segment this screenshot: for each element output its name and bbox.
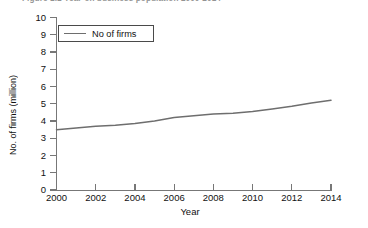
x-tick-2010 <box>252 184 253 190</box>
y-tick-label-5: 5 <box>20 99 46 109</box>
y-axis-line <box>56 17 57 191</box>
y-tick-9 <box>50 34 56 35</box>
x-tick-2012 <box>291 184 292 190</box>
legend-line-swatch-icon <box>64 33 86 35</box>
y-tick-1 <box>50 172 56 173</box>
x-tick-label-2000: 2000 <box>37 193 77 203</box>
x-tick-label-2006: 2006 <box>154 193 194 203</box>
y-tick-label-9: 9 <box>20 30 46 40</box>
y-tick-3 <box>50 138 56 139</box>
y-tick-label-10: 10 <box>20 13 46 23</box>
x-tick-label-2014: 2014 <box>311 193 351 203</box>
figure-root: Figure 1.1 Year-on business population 2… <box>0 0 368 228</box>
x-tick-label-2004: 2004 <box>115 193 155 203</box>
x-tick-2000 <box>56 184 57 190</box>
y-tick-2 <box>50 155 56 156</box>
y-tick-label-8: 8 <box>20 47 46 57</box>
x-tick-label-2002: 2002 <box>76 193 116 203</box>
y-tick-5 <box>50 103 56 104</box>
y-tick-10 <box>50 17 56 18</box>
legend-box: No of firms <box>58 25 154 42</box>
x-tick-label-2012: 2012 <box>272 193 312 203</box>
x-tick-2006 <box>174 184 175 190</box>
x-tick-label-2010: 2010 <box>233 193 273 203</box>
y-tick-label-7: 7 <box>20 64 46 74</box>
x-tick-2014 <box>330 184 331 190</box>
y-tick-label-1: 1 <box>20 168 46 178</box>
y-tick-label-4: 4 <box>20 116 46 126</box>
x-tick-2004 <box>134 184 135 190</box>
y-tick-label-6: 6 <box>20 82 46 92</box>
y-tick-6 <box>50 86 56 87</box>
y-tick-7 <box>50 69 56 70</box>
y-tick-4 <box>50 120 56 121</box>
y-tick-label-2: 2 <box>20 151 46 161</box>
y-tick-8 <box>50 51 56 52</box>
x-tick-2002 <box>95 184 96 190</box>
x-tick-2008 <box>213 184 214 190</box>
y-tick-label-3: 3 <box>20 133 46 143</box>
plot-area: 012345678910 200020022004200620082010201… <box>0 0 368 228</box>
x-tick-label-2008: 2008 <box>193 193 233 203</box>
legend-label: No of firms <box>92 29 136 39</box>
